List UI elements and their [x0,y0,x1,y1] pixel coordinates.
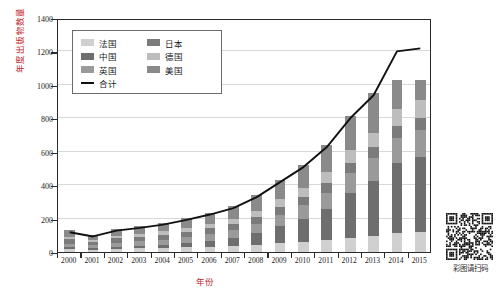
bar-segment [368,236,379,252]
legend-item-英国[interactable]: 英国 [81,64,147,76]
bar-segment [321,145,332,172]
bar-segment [321,183,332,192]
legend-color-swatch [147,39,160,46]
bar-segment [228,206,239,219]
x-axis-tick-mark [151,253,152,258]
legend-item-德国[interactable]: 德国 [147,50,213,62]
bar-column [368,93,379,252]
bar-segment [345,193,356,238]
bar-segment [368,147,379,158]
bar-column [88,235,99,253]
x-axis-tick-label: 2013 [360,256,386,265]
x-axis-tick-mark [408,253,409,258]
bar-segment [228,246,239,252]
bar-segment [275,180,286,199]
bar-segment [275,215,286,226]
y-axis-tick-label: 200 [13,215,53,224]
bar-column [228,206,239,252]
x-axis-tick-mark [127,253,128,258]
bar-column [64,230,75,252]
qr-code-icon[interactable] [446,213,493,260]
bar-segment [392,109,403,126]
x-axis-tick-label: 2012 [336,256,362,265]
legend-label: 英国 [99,64,117,76]
bar-segment [205,234,216,241]
bar-segment [298,165,309,188]
legend-item-合计[interactable]: 合计 [81,77,147,89]
x-axis-tick-mark [221,253,222,258]
bar-segment [275,199,286,207]
legend-label: 日本 [165,37,183,49]
x-axis-tick-mark [314,253,315,258]
bar-segment [321,193,332,209]
legend-item-日本[interactable]: 日本 [147,37,213,49]
bar-segment [88,250,99,252]
bar-segment [345,238,356,252]
chart-figure: 年度出版物数量 年份 0200400600800100012001400 200… [0,0,502,296]
legend-color-swatch [81,66,94,73]
bar-segment [228,238,239,246]
legend-color-swatch [147,53,160,60]
bar-segment [345,173,356,193]
legend-label: 美国 [165,64,183,76]
bar-column [392,80,403,252]
x-axis-tick-mark [338,253,339,258]
bar-column [251,195,262,252]
bar-segment [134,226,145,234]
x-axis-tick-label: 2004 [149,256,175,265]
bar-segment [298,197,309,205]
y-axis-tick-label: 400 [13,182,53,191]
bar-segment [415,157,426,233]
legend-item-法国[interactable]: 法国 [81,37,147,49]
bar-column [415,80,426,252]
x-axis-tick-label: 2007 [219,256,245,265]
y-axis-tick-label: 800 [13,115,53,124]
legend-color-swatch [147,66,160,73]
legend-color-swatch [81,53,94,60]
bar-column [275,180,286,252]
x-axis-tick-mark [197,253,198,258]
bar-segment [415,80,426,100]
bar-column [298,165,309,252]
legend-item-美国[interactable]: 美国 [147,64,213,76]
qr-caption: 彩图请扫码 [446,262,495,273]
bar-segment [111,249,122,252]
x-axis-tick-mark [104,253,105,258]
bar-column [111,229,122,252]
y-axis-tick-label: 1200 [13,48,53,57]
bar-segment [64,249,75,252]
legend-color-swatch [81,39,94,46]
bar-segment [392,163,403,233]
x-axis-tick-mark [291,253,292,258]
legend-row: 英国美国 [81,63,213,77]
bar-segment [345,150,356,163]
bar-segment [321,209,332,241]
bar-segment [275,207,286,215]
bar-segment [251,195,262,210]
x-axis-tick-label: 2010 [289,256,315,265]
bar-segment [345,163,356,173]
bar-segment [181,218,192,228]
bar-segment [321,172,332,183]
legend-row: 法国日本 [81,36,213,50]
legend-line-swatch [81,82,94,84]
bar-segment [298,188,309,197]
x-axis-tick-label: 2000 [56,256,82,265]
x-axis-title: 年份 [196,275,215,287]
bar-segment [251,217,262,224]
qr-code-block: 彩图请扫码 [446,213,495,273]
bar-segment [415,100,426,118]
bar-segment [275,226,286,243]
bar-segment [251,245,262,252]
legend-item-中国[interactable]: 中国 [81,50,147,62]
bar-segment [392,233,403,252]
bar-column [134,226,145,252]
bar-column [158,223,169,252]
x-axis-tick-mark [244,253,245,258]
bar-column [181,218,192,252]
bar-segment [368,93,379,132]
bar-segment [251,224,262,233]
x-axis-tick-mark [174,253,175,258]
y-axis-tick-label: 1000 [13,81,53,90]
bar-segment [181,247,192,252]
